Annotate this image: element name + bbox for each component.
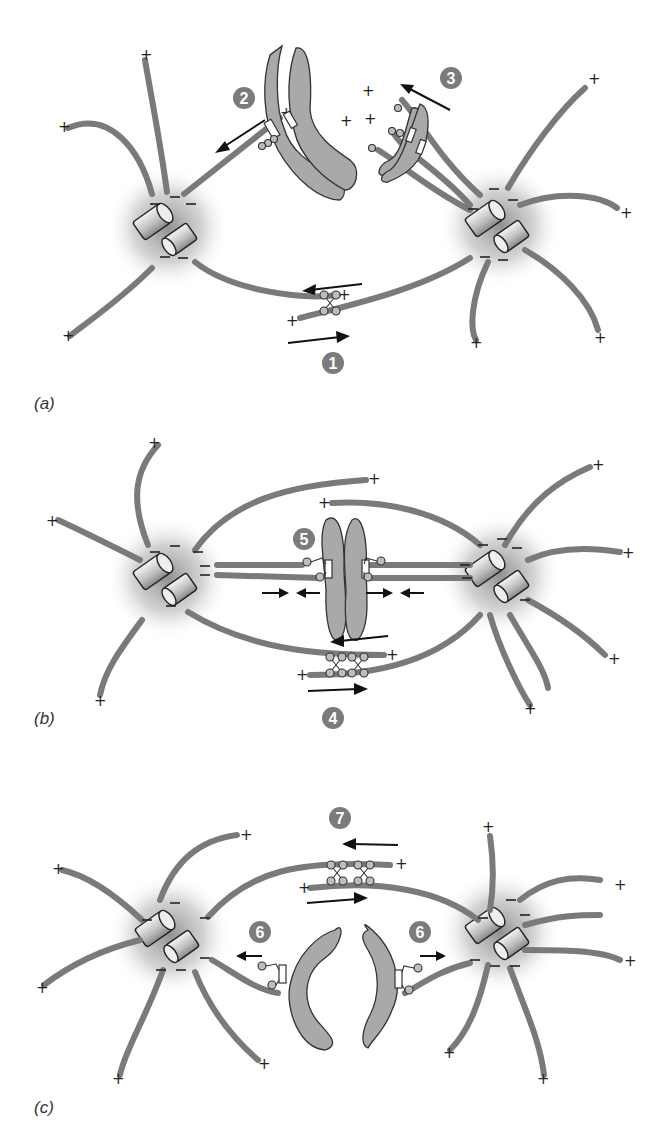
panel-c: + + + + + + + + + + + + <box>36 807 637 1088</box>
svg-text:+: + <box>624 952 637 970</box>
svg-text:+: + <box>368 470 381 488</box>
panel-b: + + + + + + + + + + + <box>46 434 635 729</box>
arrow-left-c7 <box>342 838 398 850</box>
svg-text:4: 4 <box>329 710 338 727</box>
step-badge-5: 5 <box>293 528 315 550</box>
svg-text:+: + <box>470 334 483 352</box>
svg-text:+: + <box>443 1044 456 1062</box>
step-badge-7: 7 <box>329 807 351 829</box>
panel-a: + + + + + + + + + + + + + <box>58 46 633 374</box>
svg-text:+: + <box>258 1055 271 1073</box>
centrosome-left-c <box>108 873 232 997</box>
svg-text:1: 1 <box>329 355 338 372</box>
arrow-right-b4 <box>308 683 368 695</box>
svg-text:+: + <box>622 544 635 562</box>
svg-text:+: + <box>286 312 299 330</box>
svg-text:+: + <box>608 650 621 668</box>
svg-text:+: + <box>52 860 65 878</box>
step-badge-1: 1 <box>322 352 344 374</box>
svg-text:3: 3 <box>447 70 456 87</box>
svg-text:+: + <box>364 110 377 128</box>
step-badge-2: 2 <box>233 87 255 109</box>
svg-text:+: + <box>614 876 627 894</box>
step-badge-6-left: 6 <box>249 921 271 943</box>
svg-text:+: + <box>620 204 633 222</box>
svg-text:+: + <box>46 512 59 530</box>
svg-text:+: + <box>588 70 601 88</box>
svg-text:7: 7 <box>336 810 345 827</box>
svg-text:+: + <box>296 666 309 684</box>
chromatid-left-c <box>258 928 341 1050</box>
svg-text:+: + <box>537 1070 550 1088</box>
svg-text:+: + <box>482 818 495 836</box>
svg-text:+: + <box>395 855 408 873</box>
svg-text:+: + <box>36 979 49 997</box>
svg-text:+: + <box>524 700 537 718</box>
svg-text:+: + <box>592 456 605 474</box>
svg-text:+: + <box>62 327 75 345</box>
svg-text:+: + <box>594 329 607 347</box>
svg-text:+: + <box>240 826 253 844</box>
svg-text:+: + <box>148 434 161 452</box>
svg-text:+: + <box>58 118 71 136</box>
arrow-left-c6 <box>236 951 262 961</box>
svg-text:+: + <box>362 82 375 100</box>
svg-text:+: + <box>94 692 107 710</box>
svg-text:6: 6 <box>416 924 425 941</box>
svg-text:+: + <box>298 879 311 897</box>
svg-text:+: + <box>140 46 153 64</box>
step-badge-6-right: 6 <box>409 921 431 943</box>
arrow-right-c7 <box>307 892 368 904</box>
svg-text:6: 6 <box>256 924 265 941</box>
mitosis-spindle-diagram: + + + + + + + + + + + + + <box>0 0 671 1135</box>
svg-text:+: + <box>112 1070 125 1088</box>
svg-text:+: + <box>318 494 331 512</box>
svg-text:+: + <box>340 112 353 130</box>
svg-text:2: 2 <box>240 90 249 107</box>
svg-text:5: 5 <box>300 531 309 548</box>
step-badge-3: 3 <box>440 67 462 89</box>
step-badge-4: 4 <box>322 707 344 729</box>
svg-text:+: + <box>386 646 399 664</box>
arrow-right-a1 <box>288 331 350 343</box>
